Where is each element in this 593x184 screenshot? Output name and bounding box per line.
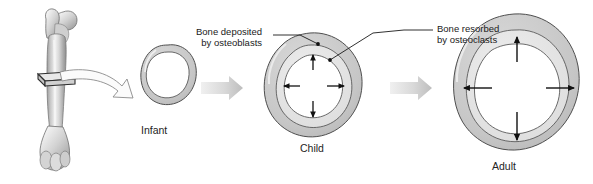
bone-remodeling-diagram: [0, 0, 593, 184]
infant-cross-section: [141, 45, 196, 105]
stage-label-infant: Infant: [141, 125, 167, 136]
callout-deposited-line2: by osteoblasts: [196, 37, 262, 48]
callout-resorbed-line1: Bone resorbed: [437, 23, 499, 34]
femur-bone-icon: [40, 9, 77, 171]
leader-endpoint-dot-icon: [328, 58, 332, 62]
leader-endpoint-dot-icon: [316, 42, 320, 46]
callout-bone-resorbed: Bone resorbed by osteoclasts: [437, 23, 499, 45]
callout-resorbed-line2: by osteoclasts: [437, 34, 499, 45]
stage-label-adult: Adult: [492, 161, 516, 172]
block-arrow-icon: [201, 76, 243, 100]
stage-label-child: Child: [300, 143, 324, 154]
child-cross-section: [264, 33, 362, 137]
callout-deposited-line1: Bone deposited: [196, 26, 262, 37]
callout-bone-deposited: Bone deposited by osteoblasts: [196, 26, 262, 48]
block-arrow-icon: [390, 76, 432, 100]
